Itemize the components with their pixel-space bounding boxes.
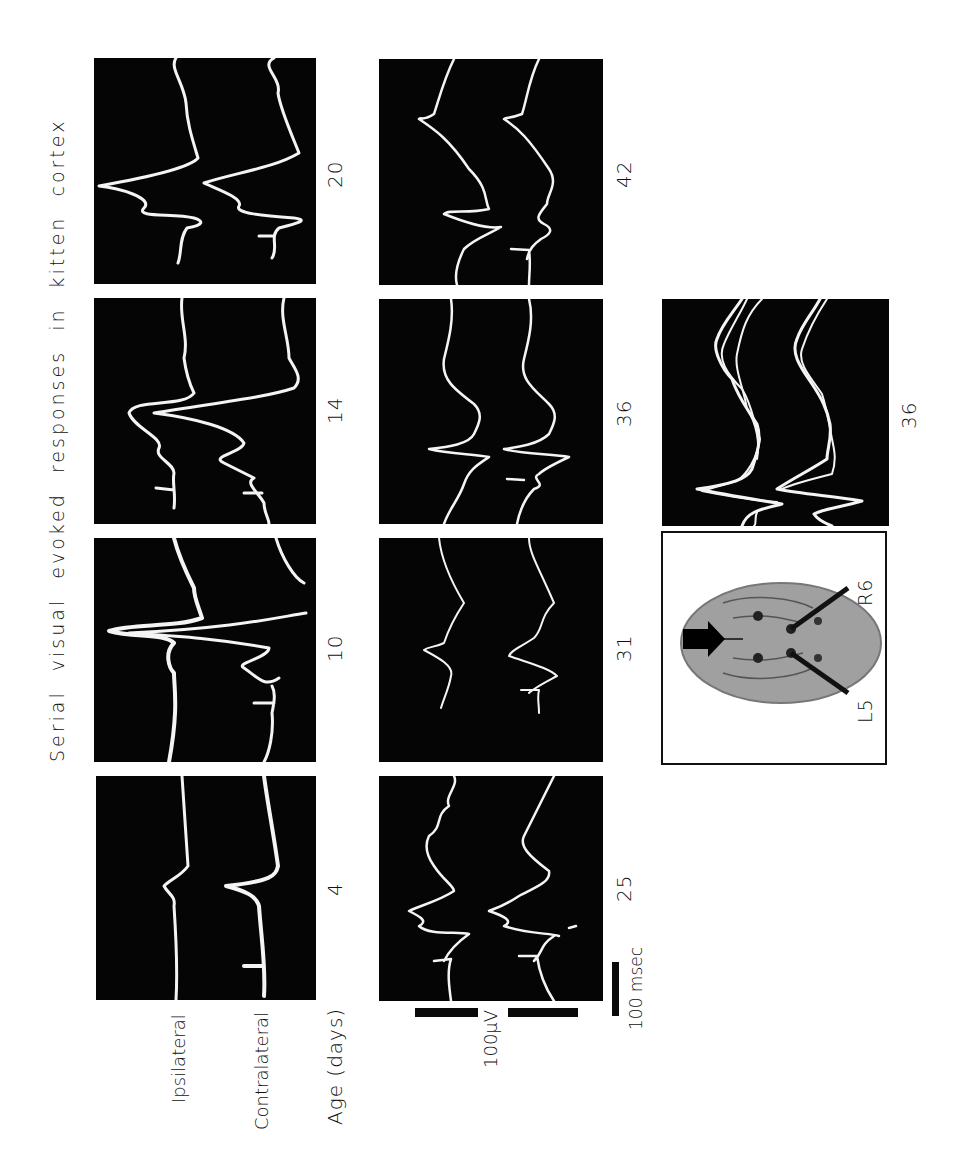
age-label-20: 20 bbox=[323, 161, 347, 188]
figure-title: Serial visual evoked responses in kitten… bbox=[46, 119, 68, 762]
evoked-response-panel-day-31 bbox=[379, 538, 603, 762]
evoked-response-panel-day-14 bbox=[94, 298, 316, 524]
evoked-response-panel-day-20 bbox=[94, 58, 316, 284]
voltage-scale-bar-bottom bbox=[508, 1008, 578, 1017]
age-label-4: 4 bbox=[323, 882, 347, 896]
age-label-42: 42 bbox=[612, 161, 636, 188]
time-scale-bar bbox=[612, 962, 619, 1016]
electrode-label-l5: L5 bbox=[854, 698, 876, 723]
electrode-label-r6: R6 bbox=[854, 579, 876, 606]
age-label-36: 36 bbox=[612, 400, 636, 427]
superimposed-response-panel-day-36 bbox=[662, 299, 889, 526]
voltage-scale-bar-top bbox=[415, 1008, 478, 1017]
age-label-31: 31 bbox=[612, 635, 636, 662]
evoked-response-panel-day-10 bbox=[94, 538, 316, 762]
age-axis-label: Age (days) bbox=[323, 1008, 347, 1125]
age-label-25: 25 bbox=[612, 875, 636, 902]
evoked-response-panel-day-4 bbox=[96, 776, 316, 1000]
evoked-response-panel-day-42 bbox=[379, 59, 603, 285]
age-label-10: 10 bbox=[323, 635, 347, 662]
voltage-scale-label: 100μV bbox=[480, 1010, 501, 1068]
age-label-36-superimposed: 36 bbox=[897, 402, 921, 429]
age-label-14: 14 bbox=[323, 397, 347, 424]
row-label-contralateral: Contralateral bbox=[251, 1012, 272, 1130]
brain-electrode-diagram: R6 L5 bbox=[661, 531, 887, 765]
evoked-response-panel-day-36 bbox=[379, 299, 603, 524]
evoked-response-panel-day-25 bbox=[379, 776, 603, 1001]
time-scale-label: 100 msec bbox=[626, 947, 646, 1030]
row-label-ipsilateral: Ipsilateral bbox=[168, 1014, 189, 1103]
